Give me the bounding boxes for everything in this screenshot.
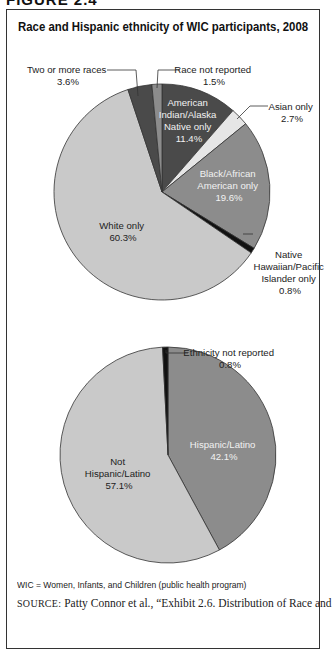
label-race-not-reported: Race not reported 1.5% <box>174 64 253 87</box>
leader-asian <box>237 106 268 119</box>
source-label: SOURCE: <box>17 598 61 609</box>
label-two-or-more: Two or more races 3.6% <box>27 64 109 87</box>
ethnicity-pie <box>60 347 276 563</box>
abbreviation-note: WIC = Women, Infants, and Children (publ… <box>17 580 246 590</box>
label-asian: Asian only 2.7% <box>269 101 316 124</box>
label-native-hawaiian: Native Hawaiian/Pacific Islander only 0.… <box>253 249 324 296</box>
source-citation: SOURCE: Patty Connor et al., “Exhibit 2.… <box>17 597 332 609</box>
source-text: Patty Connor et al., “Exhibit 2.6. Distr… <box>64 597 331 609</box>
